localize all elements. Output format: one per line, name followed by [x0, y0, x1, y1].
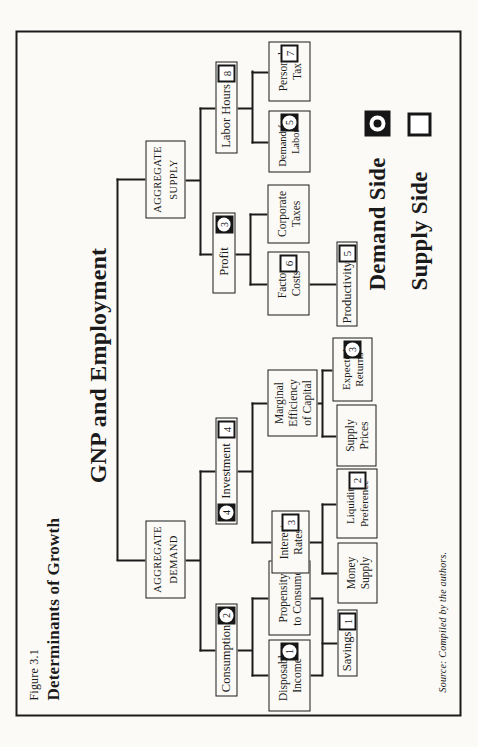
node-label: Investment — [218, 435, 233, 506]
connector-line — [237, 107, 252, 109]
node-supply-prices: SupplyPrices — [336, 404, 376, 466]
node-label: Marginal — [271, 370, 285, 435]
connector-line — [249, 213, 251, 285]
node-aggregate-demand: AGGREGATEDEMAND — [145, 520, 185, 598]
scanned-page: Figure 3.1 Determinants of Growth GNP an… — [0, 0, 478, 747]
demand-badge: 3 — [215, 215, 233, 233]
connector-line — [321, 435, 336, 437]
connector-line — [116, 559, 145, 561]
node-label: Consumption — [218, 621, 233, 695]
connector-line — [185, 179, 200, 181]
connector-line — [321, 642, 337, 644]
node-money-supply: MoneySupply — [337, 542, 377, 603]
supply-badge: 8 — [217, 64, 235, 82]
supply-side-icon — [407, 112, 431, 136]
legend-item-supply: Supply Side — [406, 110, 432, 290]
node-label: Taxes — [288, 185, 302, 242]
badge-number: 3 — [217, 217, 231, 231]
connector-line — [251, 674, 268, 676]
connector-line — [251, 70, 253, 143]
badge-number: 2 — [219, 608, 233, 622]
diagram-stage: Figure 3.1 Determinants of Growth GNP an… — [0, 0, 478, 747]
badge-number: 4 — [219, 505, 233, 519]
node-label: DEMAND — [165, 521, 181, 597]
node-personal-tax: PersonalTax7 — [268, 41, 310, 101]
connector-line — [251, 141, 268, 143]
diagram-title: GNP and Employment — [84, 220, 111, 510]
node-factor-costs: FactorCosts6 — [267, 251, 309, 315]
connector-line — [237, 470, 252, 472]
connector-line — [310, 597, 322, 599]
node-consumption: Consumption2 — [215, 603, 237, 696]
connector-line — [251, 597, 253, 676]
connector-line — [321, 369, 323, 437]
supply-badge: 4 — [217, 420, 235, 438]
node-labor-hours: Labor Hours8 — [215, 61, 237, 153]
node-label: of Capital — [299, 370, 313, 435]
badge-number: 3 — [345, 342, 359, 356]
node-expected-returns: ExpectedReturns3 — [332, 337, 372, 401]
node-label: Productivity — [339, 259, 354, 325]
node-label: Profit — [216, 230, 231, 292]
legend-item-demand: Demand Side — [364, 110, 390, 290]
node-label: SUPPLY — [165, 141, 181, 217]
demand-badge: 4 — [217, 503, 235, 521]
connector-line — [321, 572, 337, 574]
node-label: Efficiency — [285, 370, 299, 435]
node-label: Prices — [356, 405, 370, 465]
supply-badge: 5 — [338, 244, 356, 262]
connector-line — [199, 107, 215, 109]
node-savings: Savings1 — [337, 609, 357, 676]
connector-line — [199, 253, 212, 255]
connector-line — [185, 559, 200, 561]
demand-badge: 3 — [343, 340, 361, 358]
node-demand-for-labor: Demand forLabor5 — [268, 110, 310, 172]
connector-line — [251, 597, 268, 599]
node-label: Supply — [357, 543, 371, 602]
connector-line — [116, 178, 118, 560]
node-label: Money — [343, 543, 357, 602]
connector-line — [116, 178, 145, 180]
connector-line — [321, 503, 336, 505]
supply-badge: 3 — [281, 513, 299, 531]
legend-label-demand: Demand Side — [364, 136, 390, 290]
figure-caption: Figure 3.1 Determinants of Growth — [26, 517, 63, 700]
connector-line — [309, 541, 322, 543]
supply-badge: 7 — [280, 44, 298, 62]
connector-line — [251, 402, 267, 404]
figure-number: Figure 3.1 — [26, 517, 41, 700]
node-label: Corporate — [274, 185, 288, 242]
connector-line — [199, 470, 201, 651]
node-label: Supply — [342, 405, 356, 465]
connector-line — [251, 71, 268, 73]
connector-line — [251, 402, 253, 543]
connector-line — [321, 597, 323, 676]
node-label: AGGREGATE — [149, 521, 165, 597]
node-aggregate-supply: AGGREGATESUPPLY — [145, 140, 185, 218]
node-label: Savings — [339, 627, 354, 675]
supply-badge: 1 — [338, 612, 356, 630]
demand-side-icon — [364, 110, 390, 136]
node-investment: Investment44 — [215, 417, 237, 524]
node-marginal-efficiency-of-capital: MarginalEfficiencyof Capital — [267, 369, 317, 436]
connector-line — [237, 649, 252, 651]
badge-number: 1 — [282, 644, 296, 658]
node-corporate-taxes: CorporateTaxes — [267, 184, 309, 243]
legend: Demand Side Supply Side — [364, 110, 448, 290]
connector-line — [199, 107, 201, 255]
node-interest-rates: InterestRates3 — [271, 510, 309, 573]
connector-line — [199, 649, 215, 651]
connector-line — [310, 674, 322, 676]
node-label: AGGREGATE — [149, 141, 165, 217]
connector-line — [234, 253, 250, 255]
node-profit: Profit3 — [212, 212, 235, 293]
white-ring-icon — [369, 115, 385, 131]
badge-number: 5 — [282, 115, 296, 129]
supply-badge: 6 — [279, 254, 297, 272]
demand-badge: 2 — [217, 606, 235, 624]
figure-title: Determinants of Growth — [43, 517, 63, 700]
connector-line — [249, 283, 267, 285]
connector-line — [199, 470, 215, 472]
connector-line — [249, 213, 267, 215]
source-note: Source: Compiled by the authors. — [436, 551, 447, 692]
